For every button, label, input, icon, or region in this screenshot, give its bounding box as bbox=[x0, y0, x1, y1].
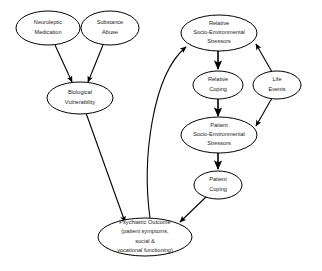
biological-vulnerability-ellipse bbox=[47, 82, 113, 114]
patient-socio-environmental-stressors-label-line: Stressors bbox=[207, 141, 231, 147]
edge-outcome-to-relative-stressors bbox=[147, 47, 186, 218]
substance-abuse-label-line: Substance bbox=[97, 20, 123, 26]
patient-coping-label-line: Coping bbox=[209, 186, 227, 192]
life-events-ellipse bbox=[253, 71, 301, 99]
biological-vulnerability-label-line: Biological bbox=[68, 90, 92, 96]
patient-socio-environmental-stressors-label-line: Patient bbox=[210, 122, 228, 128]
node-neuroleptic-medication[interactable]: NeurolepticMedication bbox=[16, 11, 80, 45]
neuroleptic-medication-label-line: Neuroleptic bbox=[34, 20, 62, 26]
patient-coping-ellipse bbox=[194, 171, 242, 199]
node-patient-coping[interactable]: PatientCoping bbox=[194, 171, 242, 199]
patient-socio-environmental-stressors-label-line: Socio-Environmental bbox=[193, 131, 245, 137]
life-events-label-line: Life bbox=[272, 77, 281, 83]
relative-socio-environmental-stressors-label-line: Relative bbox=[209, 20, 229, 26]
relative-socio-environmental-stressors-label-line: Socio-Environmental bbox=[193, 29, 245, 35]
diagram-canvas: NeurolepticMedicationSubstanceAbuseBiolo… bbox=[0, 0, 322, 271]
node-psychiatric-outcome[interactable]: Psychiatric Outcome(patient symptoms,soc… bbox=[98, 218, 192, 256]
node-patient-socio-environmental-stressors[interactable]: PatientSocio-EnvironmentalStressors bbox=[181, 117, 257, 153]
edge-biological-to-outcome bbox=[86, 113, 125, 222]
psychiatric-outcome-label-line: (patient symptoms, bbox=[121, 229, 169, 235]
node-substance-abuse[interactable]: SubstanceAbuse bbox=[81, 11, 139, 45]
psychiatric-outcome-label-line: Psychiatric Outcome bbox=[119, 220, 170, 226]
relative-coping-ellipse bbox=[193, 71, 243, 99]
node-relative-coping[interactable]: RelativeCoping bbox=[193, 71, 243, 99]
substance-abuse-label-line: Abuse bbox=[102, 29, 118, 35]
node-biological-vulnerability[interactable]: BiologicalVulnerability bbox=[47, 82, 113, 114]
neuroleptic-medication-ellipse bbox=[16, 11, 80, 45]
psychiatric-outcome-label-line: social & bbox=[135, 238, 155, 244]
substance-abuse-ellipse bbox=[81, 11, 139, 45]
node-life-events[interactable]: LifeEvents bbox=[253, 71, 301, 99]
relative-coping-label-line: Relative bbox=[208, 77, 228, 83]
diagram-svg: NeurolepticMedicationSubstanceAbuseBiolo… bbox=[0, 0, 322, 271]
biological-vulnerability-label-line: Vulnerability bbox=[65, 99, 95, 105]
edge-substance-to-biological bbox=[88, 45, 103, 82]
edge-neuroleptic-to-biological bbox=[55, 45, 72, 82]
relative-socio-environmental-stressors-label-line: Stressors bbox=[207, 39, 231, 45]
life-events-label-line: Events bbox=[268, 86, 285, 92]
node-relative-socio-environmental-stressors[interactable]: RelativeSocio-EnvironmentalStressors bbox=[181, 15, 257, 51]
edge-patient-coping-to-outcome bbox=[180, 196, 207, 222]
psychiatric-outcome-label-line: vocational functioning) bbox=[117, 247, 173, 253]
edge-life-events-to-relative-stressors bbox=[256, 44, 272, 72]
patient-coping-label-line: Patient bbox=[209, 177, 227, 183]
neuroleptic-medication-label-line: Medication bbox=[34, 29, 61, 35]
edge-life-events-to-patient-stressors bbox=[256, 98, 272, 126]
relative-coping-label-line: Coping bbox=[209, 86, 227, 92]
